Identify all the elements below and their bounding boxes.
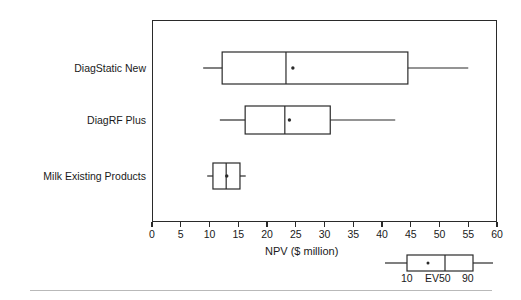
- legend-label-mid: EV50: [425, 272, 451, 284]
- legend-box-icon: [383, 252, 511, 274]
- category-label-diagrf-plus: DiagRF Plus: [0, 114, 146, 126]
- x-tick-mark: [410, 222, 411, 227]
- x-tick-label: 45: [398, 228, 424, 240]
- x-tick-label: 0: [139, 228, 165, 240]
- legend-label-high: 90: [462, 272, 474, 284]
- x-tick-label: 10: [197, 228, 223, 240]
- x-tick-mark: [295, 222, 296, 227]
- x-axis-title: NPV ($ million): [265, 245, 338, 257]
- x-tick-mark: [151, 222, 152, 227]
- x-tick-label: 15: [225, 228, 251, 240]
- x-tick-label: 25: [283, 228, 309, 240]
- x-tick-label: 40: [369, 228, 395, 240]
- boxplot-chart: DiagStatic New DiagRF Plus Milk Existing…: [0, 0, 521, 300]
- x-tick-label: 30: [312, 228, 338, 240]
- x-tick-mark: [324, 222, 325, 227]
- x-tick-label: 20: [254, 228, 280, 240]
- x-tick-mark: [238, 222, 239, 227]
- bottom-divider: [30, 290, 492, 291]
- x-tick-mark: [266, 222, 267, 227]
- category-label-diagstatic-new: DiagStatic New: [0, 62, 146, 74]
- x-tick-mark: [468, 222, 469, 227]
- x-tick-mark: [439, 222, 440, 227]
- legend-label-low: 10: [401, 272, 413, 284]
- x-tick-label: 50: [427, 228, 453, 240]
- category-label-milk-existing-products: Milk Existing Products: [0, 170, 146, 182]
- x-tick-label: 5: [168, 228, 194, 240]
- x-tick-label: 55: [455, 228, 481, 240]
- x-tick-mark: [381, 222, 382, 227]
- x-tick-label: 60: [484, 228, 510, 240]
- plot-area-frame: [152, 20, 497, 222]
- x-tick-mark: [496, 222, 497, 227]
- x-tick-mark: [180, 222, 181, 227]
- x-tick-mark: [209, 222, 210, 227]
- x-tick-mark: [353, 222, 354, 227]
- x-tick-label: 35: [340, 228, 366, 240]
- legend-key: 10 EV50 90: [383, 252, 511, 294]
